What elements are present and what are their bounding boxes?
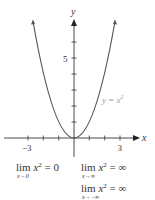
- curve-right-arrow-icon: [113, 20, 117, 25]
- lim-word: lim: [81, 182, 96, 194]
- lim-subscript: x→−∞: [82, 194, 126, 200]
- lim-value: = 0: [45, 161, 59, 173]
- lim-exponent: 2: [38, 161, 42, 169]
- limit-at-pos-infinity: lim x2 = ∞ x→∞: [81, 160, 126, 180]
- y-axis-arrow-icon: [71, 19, 77, 26]
- x-tick-label-3: 3: [118, 143, 123, 153]
- lim-value: = ∞: [110, 161, 127, 173]
- lim-value: = ∞: [110, 182, 127, 194]
- lim-word: lim: [81, 161, 96, 173]
- x-tick-label-neg3: −3: [22, 143, 32, 153]
- lim-subscript: x→0: [17, 173, 59, 180]
- lim-exponent: 2: [103, 182, 107, 190]
- parabola-plot: x y −3 3 5 y = x2: [0, 0, 155, 160]
- curve-label: y = x2: [101, 94, 124, 105]
- y-tick-label-5: 5: [63, 54, 68, 64]
- y-axis-label: y: [70, 6, 76, 17]
- curve-left-arrow-icon: [31, 20, 35, 25]
- limit-at-neg-infinity: lim x2 = ∞ x→−∞: [81, 181, 126, 200]
- limit-at-zero: lim x2 = 0 x→0: [16, 160, 59, 180]
- x-axis-label: x: [141, 132, 147, 143]
- x-axis-arrow-icon: [133, 135, 140, 141]
- lim-subscript: x→∞: [82, 173, 126, 180]
- lim-word: lim: [16, 161, 31, 173]
- lim-exponent: 2: [103, 161, 107, 169]
